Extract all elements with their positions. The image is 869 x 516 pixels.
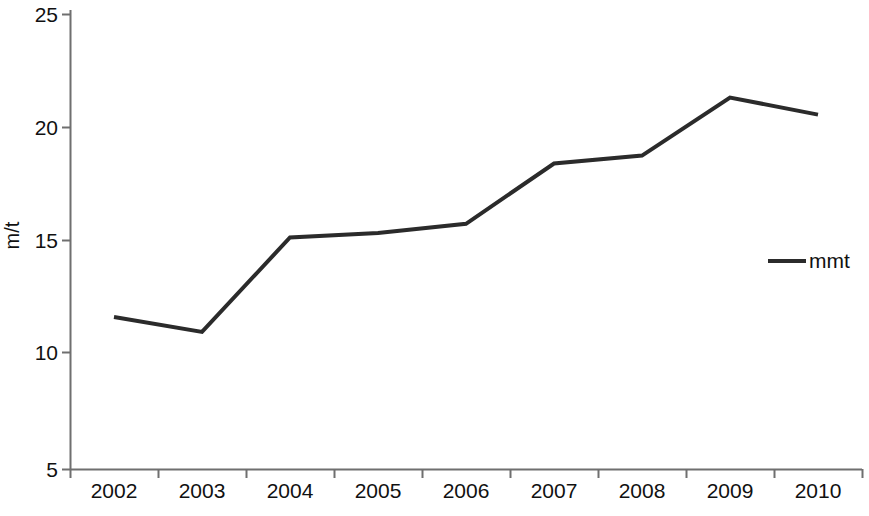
legend-line-swatch-icon [768,259,806,263]
x-tick-label: 2010 [773,480,863,501]
x-tick-label: 2004 [245,480,335,501]
x-tick-label: 2006 [421,480,511,501]
x-tick-label: 2002 [69,480,159,501]
x-tick-label: 2003 [157,480,247,501]
x-tick-label: 2005 [333,480,423,501]
line-chart: m/t 25 20 15 10 5 20 [0,0,869,516]
x-tick-label: 2007 [509,480,599,501]
series-line-mmt [114,98,818,332]
x-tick-label: 2008 [597,480,687,501]
legend-label: mmt [809,250,850,271]
y-axis-ticks [62,15,70,470]
x-tick-label: 2009 [685,480,775,501]
plot-area [0,0,869,516]
chart-legend: mmt [768,250,850,271]
